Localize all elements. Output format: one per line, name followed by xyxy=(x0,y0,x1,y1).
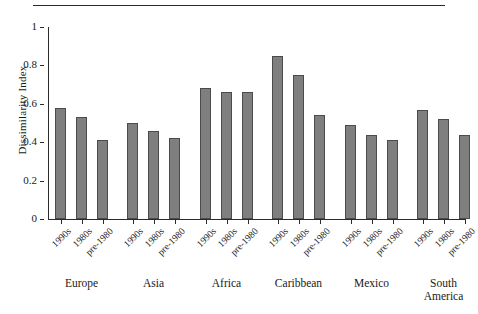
x-tick-mark xyxy=(175,220,176,224)
x-tick-mark xyxy=(227,220,228,224)
y-tick-label: 0.4 xyxy=(23,134,37,149)
y-axis-tick: 0.2 xyxy=(0,181,44,182)
bar xyxy=(221,92,232,219)
y-tick-label: 0.8 xyxy=(23,57,37,72)
bar xyxy=(76,117,87,219)
x-tick-mark xyxy=(248,220,249,224)
y-tick-mark xyxy=(40,142,44,143)
x-tick-mark xyxy=(423,220,424,224)
bar xyxy=(314,115,325,219)
y-tick-label: 0.6 xyxy=(23,96,37,111)
x-tick-mark xyxy=(154,220,155,224)
bar xyxy=(272,56,283,219)
bar xyxy=(345,125,356,219)
bar xyxy=(242,92,253,219)
y-axis-tick: 0 xyxy=(0,219,44,220)
x-tick-mark xyxy=(372,220,373,224)
bar xyxy=(366,135,377,219)
x-tick-mark xyxy=(82,220,83,224)
x-tick-mark xyxy=(133,220,134,224)
y-axis-tick: 1 xyxy=(0,27,44,28)
y-tick-label: 1 xyxy=(32,19,38,34)
x-tick-mark xyxy=(103,220,104,224)
y-axis-tick: 0.4 xyxy=(0,142,44,143)
x-tick-mark xyxy=(299,220,300,224)
plot-area xyxy=(48,27,466,219)
y-axis-tick: 0.6 xyxy=(0,104,44,105)
x-tick-mark xyxy=(206,220,207,224)
period-label: 1990s xyxy=(194,226,217,249)
y-tick-mark xyxy=(40,65,44,66)
region-label: South America xyxy=(399,277,478,303)
x-tick-mark xyxy=(444,220,445,224)
y-tick-mark xyxy=(40,181,44,182)
x-tick-mark xyxy=(278,220,279,224)
bar xyxy=(417,110,428,219)
y-tick-mark xyxy=(40,27,44,28)
bar-chart-figure: Dissimilarity Index 10.80.60.40.20 1990s… xyxy=(0,0,478,314)
bar xyxy=(169,138,180,219)
x-tick-mark xyxy=(61,220,62,224)
bar xyxy=(97,140,108,219)
bar xyxy=(438,119,449,219)
period-label: 1990s xyxy=(266,226,289,249)
y-axis-tick: 0.8 xyxy=(0,65,44,66)
bar xyxy=(387,140,398,219)
top-rule-divider xyxy=(33,5,445,6)
x-axis-line xyxy=(48,219,466,220)
x-tick-mark xyxy=(393,220,394,224)
bar xyxy=(127,123,138,219)
x-tick-mark xyxy=(320,220,321,224)
period-label: 1990s xyxy=(49,226,72,249)
x-tick-mark xyxy=(465,220,466,224)
bar xyxy=(200,88,211,219)
period-label: 1990s xyxy=(411,226,434,249)
bar xyxy=(55,108,66,219)
period-label: 1990s xyxy=(339,226,362,249)
y-tick-mark xyxy=(40,104,44,105)
bar xyxy=(459,135,470,219)
y-tick-label: 0 xyxy=(32,211,38,226)
y-tick-label: 0.2 xyxy=(23,173,37,188)
period-label: 1990s xyxy=(121,226,144,249)
y-tick-mark xyxy=(40,219,44,220)
x-tick-mark xyxy=(351,220,352,224)
bar xyxy=(293,75,304,219)
bar xyxy=(148,131,159,219)
